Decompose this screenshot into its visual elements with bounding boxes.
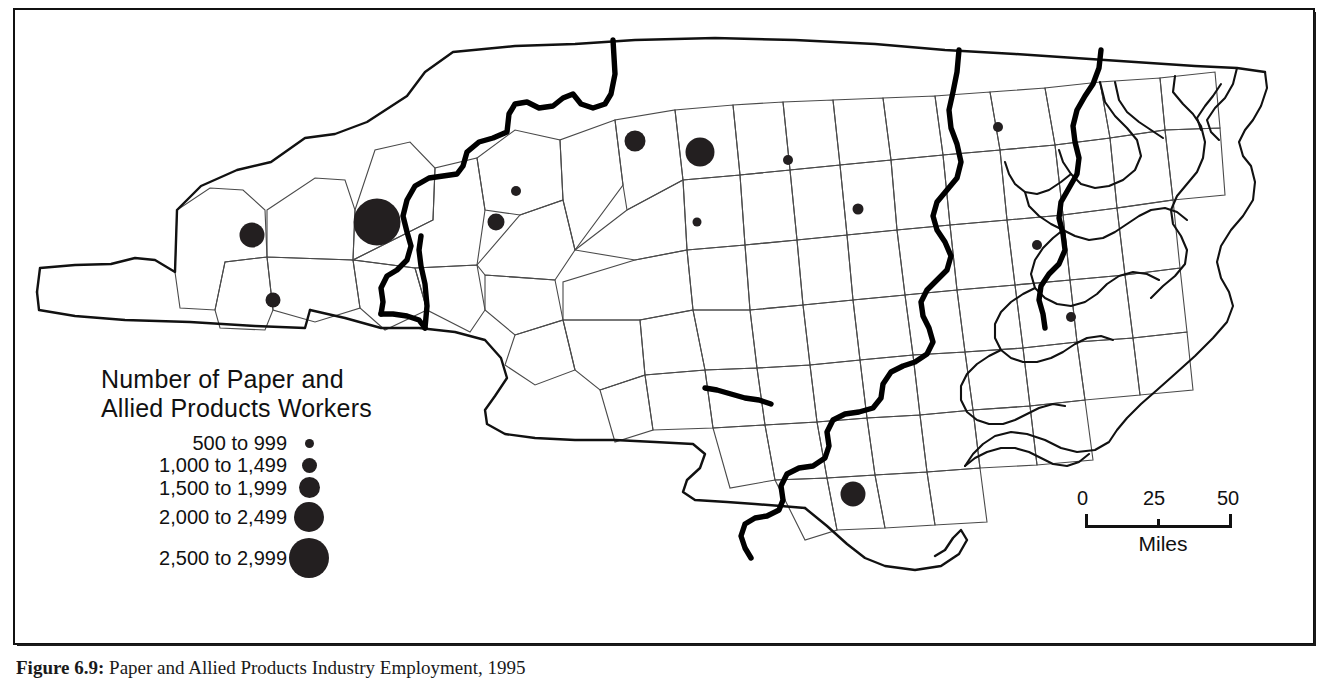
legend-symbol — [305, 502, 353, 532]
legend-row: 2,000 to 2,499 — [87, 502, 437, 532]
symbol-circle — [511, 186, 521, 196]
symbol-circle — [841, 482, 866, 507]
figure-caption-text: Paper and Allied Products Industry Emplo… — [104, 657, 525, 678]
legend-symbol — [305, 458, 353, 473]
scale-line — [1077, 512, 1257, 528]
symbol-circle — [686, 138, 715, 167]
legend-row: 2,500 to 2,999 — [87, 538, 437, 578]
symbol-circle — [1032, 240, 1042, 250]
figure-caption: Figure 6.9: Paper and Allied Products In… — [16, 657, 1316, 679]
scale-label-zero: 0 — [1077, 488, 1088, 508]
symbol-circle — [266, 293, 281, 308]
legend-symbol — [305, 538, 353, 578]
legend-label: 2,500 to 2,999 — [87, 548, 305, 568]
legend-row: 1,000 to 1,499 — [87, 455, 437, 475]
symbol-circle — [693, 218, 702, 227]
legend-row: 1,500 to 1,999 — [87, 477, 437, 498]
scale-tick-labels: 0 25 50 — [1077, 488, 1257, 510]
legend-dot-icon — [302, 458, 317, 473]
symbol-circle — [354, 199, 401, 246]
figure-caption-number: Figure 6.9: — [16, 657, 104, 678]
coastline — [961, 68, 1267, 466]
legend-symbol — [305, 477, 353, 498]
legend-dot-icon — [305, 439, 314, 448]
legend-label: 2,000 to 2,499 — [87, 507, 305, 527]
symbol-circle — [853, 204, 864, 215]
symbol-circle — [240, 223, 265, 248]
scale-label-max: 50 — [1217, 488, 1239, 508]
legend-label: 1,500 to 1,999 — [87, 478, 305, 498]
symbol-circle — [1066, 312, 1076, 322]
symbol-circle — [625, 131, 646, 152]
scale-tick-mid — [1157, 519, 1160, 528]
legend-title: Number of Paper and Allied Products Work… — [101, 365, 437, 423]
scale-label-mid: 25 — [1143, 488, 1165, 508]
symbol-circle — [993, 122, 1003, 132]
physiographic-region-boundaries — [381, 40, 1101, 558]
symbol-circle — [488, 214, 505, 231]
map-legend: Number of Paper and Allied Products Work… — [87, 365, 437, 578]
legend-symbol — [305, 439, 353, 448]
scale-units-label: Miles — [1077, 532, 1257, 556]
legend-dot-icon — [289, 538, 329, 578]
legend-dot-icon — [294, 502, 324, 532]
figure-frame: Number of Paper and Allied Products Work… — [13, 8, 1315, 645]
scale-tick-start — [1085, 514, 1088, 528]
legend-dot-icon — [299, 477, 320, 498]
symbol-circle — [783, 155, 793, 165]
legend-label: 500 to 999 — [87, 433, 305, 453]
legend-row: 500 to 999 — [87, 433, 437, 453]
map-scale-bar: 0 25 50 Miles — [1077, 488, 1257, 556]
scale-tick-end — [1229, 514, 1232, 528]
legend-label: 1,000 to 1,499 — [87, 455, 305, 475]
